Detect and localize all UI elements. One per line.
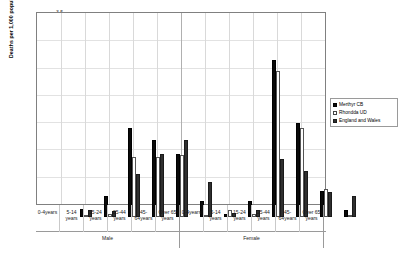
x-axis-group-label: Male <box>102 235 113 241</box>
x-axis-category-label: years <box>257 215 269 221</box>
category-separator <box>61 13 62 204</box>
bar <box>352 196 356 217</box>
plot-area <box>36 12 326 205</box>
x-axis-category-label: years <box>209 215 221 221</box>
x-axis-category-cell: 0-4years <box>36 205 60 232</box>
x-axis-category-label: years <box>233 215 245 221</box>
x-axis-category-cell: 45-64years <box>132 205 156 232</box>
x-axis-category-cell: 0-4years <box>180 205 204 232</box>
x-axis-category-label: years <box>161 215 173 221</box>
x-axis-category-cell: 15-24years <box>84 205 108 232</box>
x-axis-category-cell: 5-14years <box>60 205 84 232</box>
x-axis-category-cell: 5-14years <box>204 205 228 232</box>
x-axis-category-cell: Over 65years <box>156 205 180 232</box>
bars-layer <box>74 26 362 217</box>
x-axis-group-labels: MaleFemale <box>36 232 326 248</box>
x-axis-category-label: 0-4years <box>182 209 201 215</box>
x-axis-category-label: years <box>113 215 125 221</box>
x-axis-group-label: Female <box>243 235 260 241</box>
legend-swatch-icon <box>333 119 337 123</box>
legend-item-label: Merthyr CB <box>339 102 363 108</box>
x-axis-category-label: 64years <box>279 215 297 221</box>
legend-item: England and Wales <box>333 117 395 124</box>
legend-swatch-icon <box>333 103 337 107</box>
x-axis-category-cell: 25-44years <box>252 205 276 232</box>
x-axis-category-cell: Over 65years <box>300 205 324 232</box>
legend-item-label: England and Wales <box>339 118 380 124</box>
y-axis-title: Deaths per 1,000 population <box>8 0 14 58</box>
x-axis-category-cell: 45-64years <box>276 205 300 232</box>
x-axis-category-cell: 15-24years <box>228 205 252 232</box>
bar-chart: Deaths per 1,000 population 00.511.522.5… <box>0 0 401 255</box>
x-axis-category-label: 64years <box>135 215 153 221</box>
legend-item: Rhondda UD <box>333 109 395 116</box>
legend-swatch-icon <box>333 111 337 115</box>
x-axis-category-label: years <box>305 215 317 221</box>
x-axis-category-cell: 25-44years <box>108 205 132 232</box>
x-axis-category-label: years <box>89 215 101 221</box>
legend-item: Merthyr CB <box>333 101 395 108</box>
chart-legend: Merthyr CBRhondda UDEngland and Wales <box>330 98 398 127</box>
x-axis-group-cell: Male <box>36 232 180 248</box>
legend-item-label: Rhondda UD <box>339 110 367 116</box>
x-axis-category-label: 0-4years <box>38 209 57 215</box>
x-axis-category-labels: 0-4years5-14years15-24years25-44years45-… <box>36 205 326 232</box>
x-axis-group-cell: Female <box>180 232 324 248</box>
bar <box>328 192 332 217</box>
x-axis-category-label: years <box>65 215 77 221</box>
